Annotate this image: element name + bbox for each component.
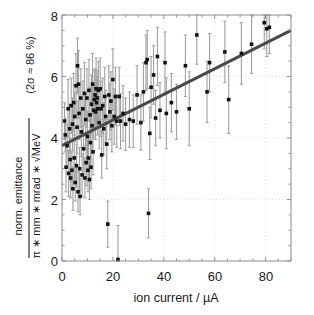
x-tick-label-0: 0 (58, 269, 65, 284)
y-axis-denominator: π ∗ mm ∗ mrad ∗ √MeV (30, 133, 42, 259)
scatter-plot-canvas: 8 6 4 2 0 0 20 40 60 80 ion current / µA… (0, 0, 314, 315)
y-tick-label-0: 0 (51, 254, 58, 269)
y-tick-label-6: 6 (51, 70, 58, 85)
y-axis-numerator: norm. emittance (12, 157, 24, 236)
y-tick-label-2: 2 (51, 193, 58, 208)
x-axis-title: ion current / µA (133, 291, 219, 305)
x-tick-label-20: 20 (106, 269, 120, 284)
y-tick-label-4: 4 (51, 131, 58, 146)
x-tick-label-60: 60 (208, 269, 222, 284)
x-tick-label-80: 80 (259, 269, 273, 284)
y-axis-sigma-note: (2σ ≈ 86 %) (24, 36, 36, 93)
y-tick-label-8: 8 (51, 9, 58, 24)
x-tick-label-40: 40 (157, 269, 171, 284)
emittance-vs-ion-current-figure: 8 6 4 2 0 0 20 40 60 80 ion current / µA… (0, 0, 314, 315)
